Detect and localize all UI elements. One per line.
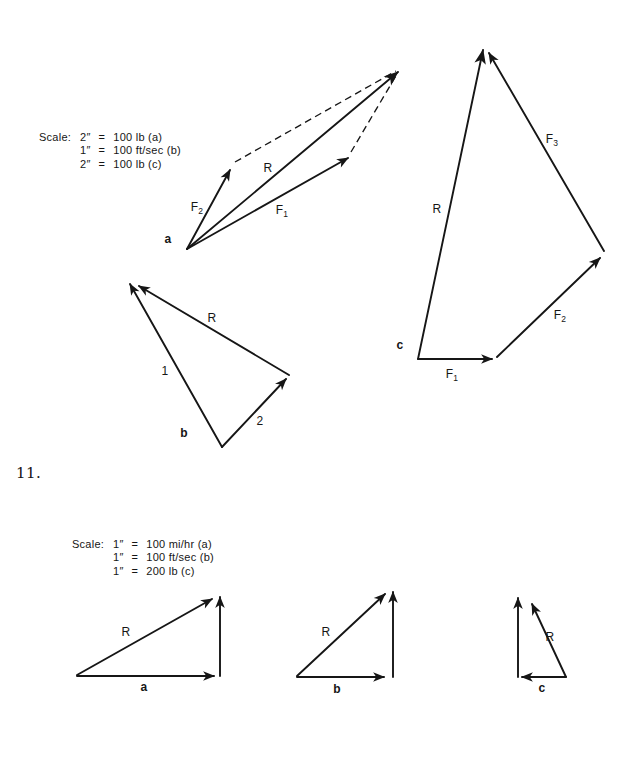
top-diagram-b: 1 2 R b (130, 284, 289, 447)
vector-f3-line (489, 53, 604, 251)
diagram-c-label: c (397, 338, 404, 352)
diagram-c-label: c (539, 681, 546, 695)
vector-r-line (418, 50, 483, 359)
vector-r-line (187, 72, 398, 249)
diagram-a-label: a (141, 680, 148, 694)
vector-r-label: R (208, 311, 217, 325)
vector-f2-line (497, 258, 600, 357)
vector-r-label: R (546, 630, 555, 644)
vector-r-label: R (264, 161, 273, 175)
vector-r-line (77, 599, 212, 675)
vector-r-label: R (433, 202, 442, 216)
vector-1-label: 1 (162, 364, 169, 378)
parallelogram-dashed-line (351, 74, 397, 152)
vector-figures: F2 F1 R a 1 2 R b F1 F2 F3 R c (0, 0, 642, 783)
diagram-b-label: b (180, 426, 188, 440)
diagram-a-label: a (165, 232, 172, 246)
vector-r-line (139, 286, 289, 375)
bottom-diagram-c: R c (518, 598, 566, 695)
top-diagram-a: F2 F1 R a (165, 71, 398, 249)
textbook-page: Scale: 2″ = 100 lb (a) 1″ = 100 ft/sec (… (0, 0, 642, 783)
bottom-diagram-a: R a (77, 597, 220, 694)
vector-2-label: 2 (257, 414, 264, 428)
vector-r-label: R (322, 625, 331, 639)
diagram-b-label: b (333, 682, 341, 696)
vector-f1-label: F1 (276, 203, 289, 219)
vector-f2-label: F2 (554, 308, 567, 324)
vector-f3-label: F3 (546, 132, 559, 148)
vector-2-line (222, 379, 286, 447)
top-diagram-c: F1 F2 F3 R c (397, 50, 604, 383)
vector-f2-label: F2 (191, 200, 204, 216)
vector-r-line (297, 594, 385, 676)
vector-r-label: R (122, 625, 131, 639)
vector-f1-label: F1 (446, 367, 459, 383)
bottom-diagram-b: R b (297, 592, 393, 696)
